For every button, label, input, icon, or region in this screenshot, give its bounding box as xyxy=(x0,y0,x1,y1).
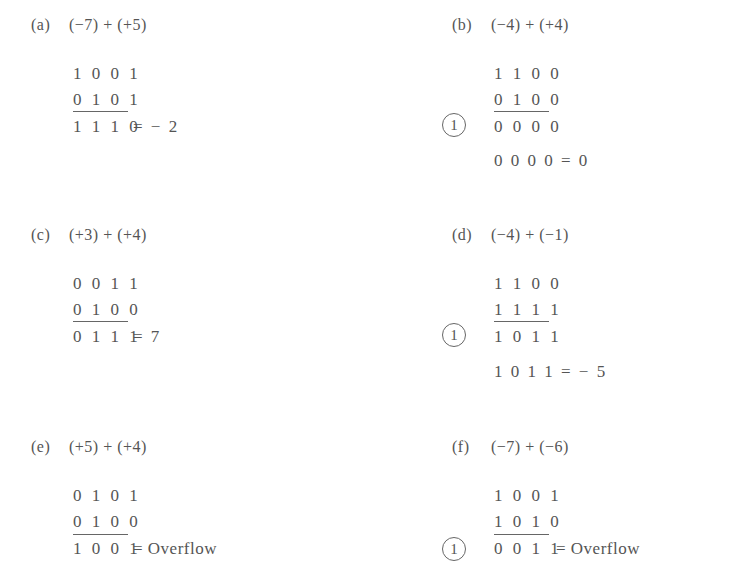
augend: 1 1 0 0 xyxy=(494,274,562,294)
sum-rule xyxy=(73,111,128,112)
addend: 0 1 0 0 xyxy=(73,300,141,320)
final-result: 1 0 1 1 = − 5 xyxy=(494,362,607,382)
sum-result: = Overflow xyxy=(133,539,217,559)
final-result: 0 0 0 0 = 0 xyxy=(494,151,589,171)
sum-rule xyxy=(73,534,128,535)
addend: 0 1 0 0 xyxy=(73,512,141,532)
augend: 0 1 0 1 xyxy=(73,486,141,506)
sum: 0 0 1 1 xyxy=(494,539,562,559)
carry-out-circle: 1 xyxy=(442,537,466,561)
sum-result: = Overflow xyxy=(556,539,640,559)
sum-result: = − 2 xyxy=(133,117,179,137)
problem-label: (a) xyxy=(31,16,50,34)
augend: 1 0 0 1 xyxy=(494,486,562,506)
problem-label: (e) xyxy=(31,438,50,456)
problem-label: (c) xyxy=(31,226,50,244)
problem-expression: (+5) + (+4) xyxy=(69,438,147,456)
problem-expression: (−4) + (+4) xyxy=(491,16,569,34)
problem-label: (d) xyxy=(452,226,472,244)
augend: 0 0 1 1 xyxy=(73,274,141,294)
carry-out-circle: 1 xyxy=(442,323,466,347)
addend: 1 0 1 0 xyxy=(494,512,562,532)
sum: 0 0 0 0 xyxy=(494,117,562,137)
problem-label: (b) xyxy=(452,16,472,34)
problem-expression: (+3) + (+4) xyxy=(69,226,147,244)
sum: 0 1 1 1 xyxy=(73,327,141,347)
sum-rule xyxy=(494,111,549,112)
carry-out-circle: 1 xyxy=(442,113,466,137)
augend: 1 1 0 0 xyxy=(494,64,562,84)
addend: 1 1 1 1 xyxy=(494,300,562,320)
problem-expression: (−7) + (−6) xyxy=(491,438,569,456)
addend: 0 1 0 0 xyxy=(494,90,562,110)
problem-expression: (−7) + (+5) xyxy=(69,16,147,34)
sum: 1 0 1 1 xyxy=(494,327,562,347)
problem-expression: (−4) + (−1) xyxy=(491,226,569,244)
sum-rule xyxy=(494,534,549,535)
sum: 1 1 1 0 xyxy=(73,117,141,137)
addend: 0 1 0 1 xyxy=(73,90,141,110)
sum: 1 0 0 1 xyxy=(73,539,141,559)
sum-rule xyxy=(73,321,128,322)
sum-result: = 7 xyxy=(133,327,161,347)
problem-label: (f) xyxy=(452,438,469,456)
sum-rule xyxy=(494,321,549,322)
augend: 1 0 0 1 xyxy=(73,64,141,84)
